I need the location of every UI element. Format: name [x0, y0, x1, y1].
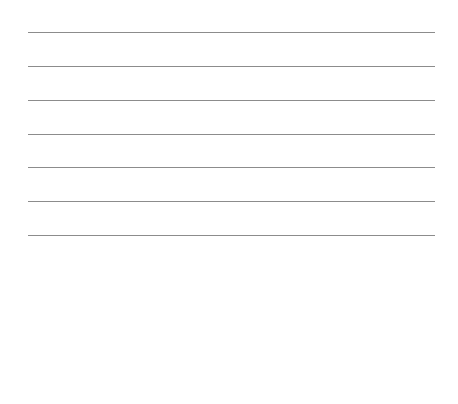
ruled-line-6	[28, 201, 435, 202]
ruled-line-2	[28, 66, 435, 67]
ruled-line-7	[28, 235, 435, 236]
ruled-line-1	[28, 32, 435, 33]
lined-writing-area	[0, 0, 458, 404]
ruled-line-3	[28, 100, 435, 101]
ruled-line-4	[28, 134, 435, 135]
ruled-line-5	[28, 167, 435, 168]
